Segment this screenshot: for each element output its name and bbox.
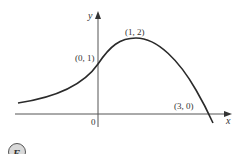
x-axis-label: x xyxy=(225,115,231,126)
y-axis xyxy=(95,11,101,127)
point-label-maximum: (1, 2) xyxy=(125,27,145,37)
point-label-y-intercept: (0, 1) xyxy=(75,53,95,63)
function-graph: y x 0 (0, 1) (1, 2) (3, 0) E xyxy=(0,0,244,154)
origin-label: 0 xyxy=(91,117,96,127)
x-axis xyxy=(15,111,232,117)
y-axis-label: y xyxy=(87,10,93,21)
badge-label: E xyxy=(12,147,20,154)
y-axis-arrow-icon xyxy=(95,11,101,19)
point-label-x-intercept: (3, 0) xyxy=(174,101,194,111)
figure-badge: E xyxy=(9,144,26,155)
